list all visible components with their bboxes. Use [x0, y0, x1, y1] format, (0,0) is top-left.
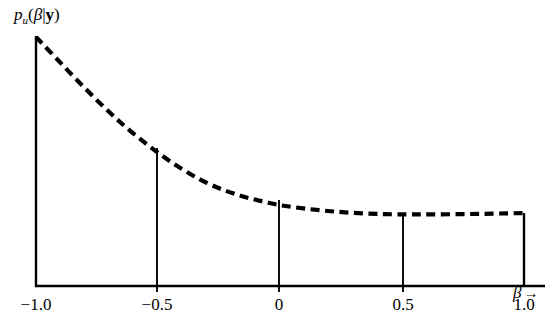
probability-density-plot: pu(β|y) −1.0 −0.5 0 0.5 1.0 β→ [0, 0, 559, 327]
x-axis-label: β→ [513, 284, 538, 301]
y-axis-label-close-paren: ) [54, 5, 60, 24]
y-axis-label: pu(β|y) [14, 6, 60, 26]
x-tick-label-0-5: 0.5 [392, 296, 413, 313]
plot-canvas [0, 0, 559, 327]
x-tick-label-0: 0 [275, 296, 284, 313]
x-tick-label-neg-0-5: −0.5 [142, 296, 173, 313]
y-axis-label-beta: β [34, 5, 42, 24]
x-tick-label-neg-1-0: −1.0 [21, 296, 52, 313]
y-axis-label-p: p [14, 5, 23, 24]
density-curve [36, 37, 524, 214]
y-axis-label-y: y [46, 5, 55, 24]
right-arrow-icon: → [521, 285, 538, 301]
